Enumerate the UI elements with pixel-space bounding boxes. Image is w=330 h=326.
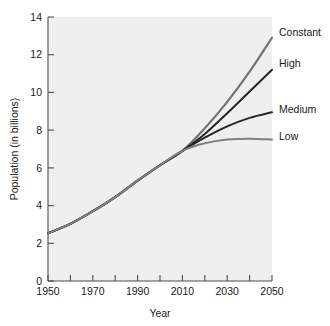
y-tick-label-6: 6 (36, 162, 42, 174)
x-tick-label-2030: 2030 (216, 285, 240, 297)
series-label-low: Low (279, 130, 299, 142)
y-tick-label-12: 12 (30, 48, 42, 60)
x-axis-title: Year (149, 307, 171, 319)
population-projection-figure: 0 2 4 6 8 10 12 14 1950 1970 1990 2010 2… (0, 0, 330, 326)
y-tick-label-10: 10 (30, 86, 42, 98)
y-tick-label-2: 2 (36, 237, 42, 249)
y-axis-title: Population (in billions) (8, 98, 20, 201)
plot-area-background (48, 17, 272, 281)
x-tick-label-1970: 1970 (81, 285, 105, 297)
series-label-high: High (279, 57, 301, 69)
x-tick-label-1950: 1950 (36, 285, 60, 297)
y-tick-label-14: 14 (30, 11, 42, 23)
x-tick-label-2050: 2050 (260, 285, 284, 297)
series-label-constant: Constant (279, 26, 321, 38)
chart-canvas: 0 2 4 6 8 10 12 14 1950 1970 1990 2010 2… (0, 0, 330, 326)
series-label-medium: Medium (279, 103, 317, 115)
x-tick-label-1990: 1990 (126, 285, 150, 297)
y-tick-label-4: 4 (36, 199, 42, 211)
x-tick-label-2010: 2010 (171, 285, 195, 297)
y-tick-label-8: 8 (36, 124, 42, 136)
